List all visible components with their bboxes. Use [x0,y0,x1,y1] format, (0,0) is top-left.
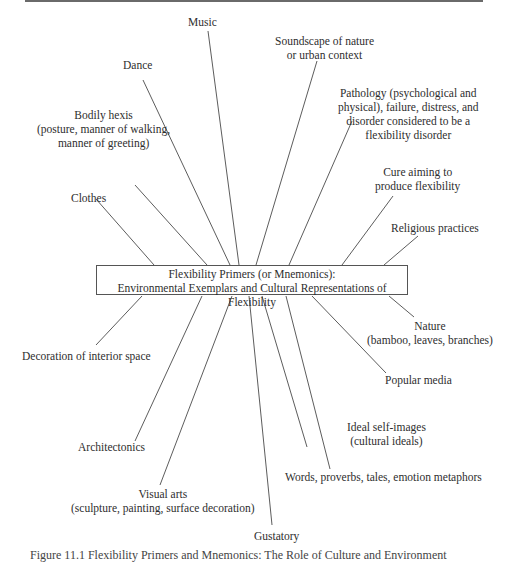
connector-cure [342,196,393,265]
node-nature: Nature (bamboo, leaves, branches) [367,319,493,347]
connector-clothes [96,199,154,265]
connector-visual [160,296,232,485]
node-pathology: Pathology (psychological and physical), … [338,86,479,142]
node-dance: Dance [123,58,152,72]
node-architectonics: Architectonics [78,440,145,454]
connector-religious [384,236,418,265]
connector-bodily [135,185,207,265]
node-soundscape: Soundscape of nature or urban context [275,34,374,62]
node-music: Music [188,15,217,29]
connector-ideal [262,296,307,447]
connector-architectonics [135,296,202,441]
node-gustatory: Gustatory [254,529,299,543]
central-subtitle: Environmental Exemplars and Cultural Rep… [97,281,407,309]
connector-music [208,31,239,265]
connector-soundscape [256,61,317,265]
node-cure: Cure aiming to produce flexibility [375,165,460,193]
node-bodily-hexis: Bodily hexis (posture, manner of walking… [37,108,170,150]
node-clothes: Clothes [71,191,106,205]
node-popular-media: Popular media [385,373,452,387]
node-ideal-self-images: Ideal self-images (cultural ideals) [347,420,426,448]
node-visual-arts: Visual arts (sculpture, painting, surfac… [71,487,255,515]
central-title: Flexibility Primers (or Mnemonics): [97,267,407,281]
central-concept-box: Flexibility Primers (or Mnemonics): Envi… [96,265,408,295]
connector-words [286,296,330,469]
node-religious-practices: Religious practices [391,221,479,235]
connector-pathology [289,121,352,265]
figure-caption: Figure 11.1 Flexibility Primers and Mnem… [30,548,447,563]
node-decoration: Decoration of interior space [22,349,151,363]
node-words: Words, proverbs, tales, emotion metaphor… [285,470,482,484]
